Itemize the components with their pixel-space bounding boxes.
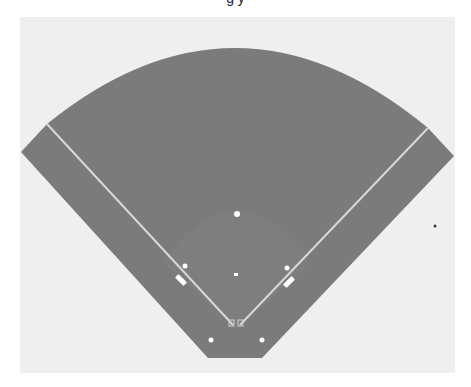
third-base [183,264,188,269]
second-base [234,211,240,217]
stray-dot [434,225,437,228]
left-dugout-marker [209,338,214,343]
baseball-field-diagram [0,0,471,387]
page: g y [0,0,471,387]
pitchers-plate [234,273,238,276]
first-base [285,266,290,271]
right-dugout-marker [260,338,265,343]
